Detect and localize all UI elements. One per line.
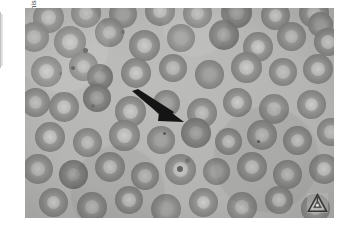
red-blood-cell	[269, 58, 297, 86]
red-blood-cell	[273, 160, 302, 189]
debris-speck	[83, 48, 88, 53]
red-blood-cell	[231, 52, 262, 83]
debris-speck	[177, 166, 183, 172]
debris-speck	[185, 158, 190, 163]
red-blood-cell	[153, 90, 180, 117]
debris-speck	[121, 30, 125, 34]
red-blood-cell	[49, 92, 79, 122]
red-blood-cell	[314, 28, 334, 56]
red-blood-cell	[147, 126, 175, 154]
red-blood-cell	[303, 54, 333, 84]
red-blood-cell	[129, 30, 160, 61]
red-blood-cell	[121, 58, 151, 88]
red-blood-cell	[151, 194, 181, 218]
red-blood-cell	[39, 188, 68, 217]
red-blood-cell	[109, 120, 140, 151]
red-blood-cell	[167, 24, 195, 52]
red-blood-cell	[35, 122, 65, 152]
red-blood-cell	[195, 60, 224, 89]
red-blood-cell	[73, 128, 102, 157]
cap-watermark-logo	[307, 193, 328, 213]
red-blood-cell	[203, 158, 230, 185]
red-blood-cell	[83, 84, 111, 112]
red-blood-cell	[77, 192, 107, 218]
red-blood-cell	[59, 160, 88, 189]
red-blood-cell	[223, 88, 252, 117]
red-blood-cell	[209, 20, 239, 50]
red-blood-cell	[189, 188, 218, 217]
red-blood-cell	[159, 54, 187, 82]
figure-page: From The College of American Pathologist…	[0, 0, 343, 234]
debris-speck	[71, 66, 75, 70]
red-blood-cell	[31, 56, 62, 87]
red-blood-cell	[297, 90, 326, 119]
photomicrograph-plate	[25, 8, 334, 218]
debris-speck	[163, 132, 166, 135]
red-blood-cell	[309, 154, 334, 184]
red-blood-cell	[265, 186, 293, 214]
debris-speck	[59, 72, 62, 75]
red-blood-cell	[181, 118, 211, 148]
red-blood-cell	[283, 126, 312, 155]
red-blood-cell	[215, 128, 242, 155]
red-blood-cell	[115, 186, 143, 214]
red-blood-cell	[95, 18, 124, 47]
debris-speck	[257, 140, 260, 143]
debris-speck	[91, 104, 95, 108]
red-blood-cell	[277, 22, 306, 51]
red-blood-cell	[95, 152, 125, 182]
red-blood-cell	[247, 120, 277, 150]
red-blood-cell	[131, 162, 159, 190]
red-blood-cell	[227, 192, 257, 218]
left-edge-rule-shade	[0, 14, 3, 66]
red-blood-cell	[237, 152, 267, 182]
